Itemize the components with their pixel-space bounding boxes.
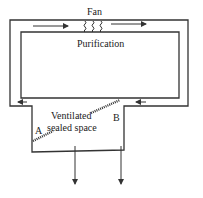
fan-label: Fan <box>87 6 102 17</box>
point-b-label: B <box>113 112 120 123</box>
fan-icon <box>84 21 102 32</box>
ventilation-diagram: Fan Purification Ventilated sealed space… <box>0 0 203 198</box>
ventilated-label: Ventilated <box>51 110 92 121</box>
sealed-space-label: sealed space <box>47 122 97 133</box>
purification-label: Purification <box>77 38 124 49</box>
point-a-label: A <box>35 125 43 136</box>
